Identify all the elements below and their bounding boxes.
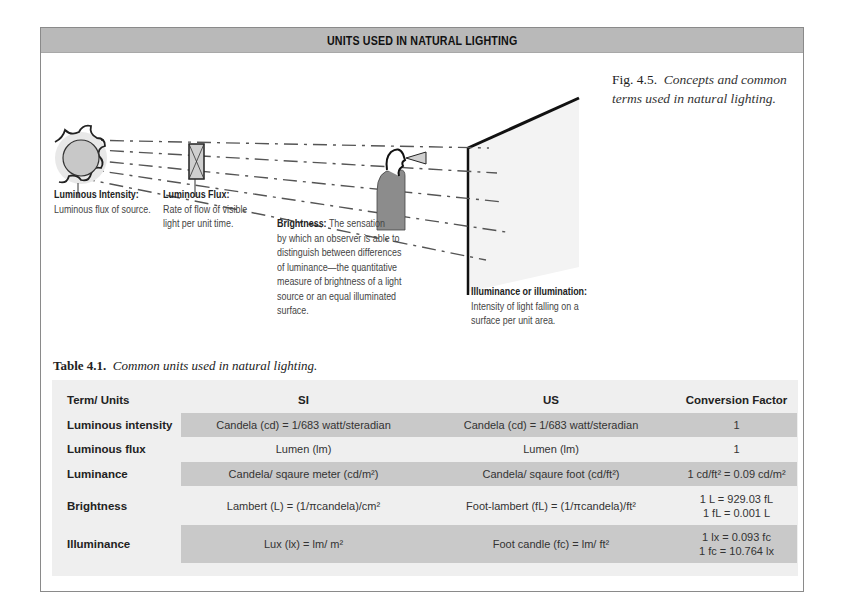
panel-banner: UNITS USED IN NATURAL LIGHTING [41,28,803,53]
row-cells: Lambert (L) = (1/πcandela)/cm² Foot-lamb… [181,487,797,524]
cell-si: Candela (cd) = 1/683 watt/steradian [181,418,426,432]
cell-us: Foot candle (fc) = lm/ ft² [426,537,676,551]
brightness-label: Brightness: The sensation by which an ob… [277,216,402,318]
brightness-body-line: by which an observer is able to [277,231,402,246]
header-conversion: Conversion Factor [676,393,797,407]
luminous-flux-body-line: Rate of flow of visible [163,202,247,217]
cell-us: Lumen (lm) [426,442,676,456]
table-caption-text: Common units used in natural lighting. [113,358,317,373]
cell-conversion: 1 [676,442,797,456]
header-us: US [426,393,676,407]
brightness-body-line: source or an equal illuminated [277,289,402,304]
illuminance-label: Illuminance or illumination: Intensity o… [471,284,587,328]
cell-conversion: 1 cd/ft² = 0.09 cd/m² [676,467,797,481]
lighting-diagram: Luminous Intensity: Luminous flux of sou… [41,52,801,352]
luminous-flux-heading: Luminous Flux: [163,187,247,202]
illuminance-body-line: Intensity of light falling on a [471,299,587,314]
cell-si: Candela/ sqaure meter (cd/m²) [181,467,426,481]
brightness-body-line: measure of brightness of a light [277,274,402,289]
luminous-flux-label: Luminous Flux: Rate of flow of visible l… [163,187,247,231]
brightness-body-line: The sensation [329,217,385,229]
header-cells: SI US Conversion Factor [181,388,797,412]
cell-conversion: 1 [676,418,797,432]
table-caption: Table 4.1. Common units used in natural … [41,358,317,374]
row-cells: Lumen (lm) Lumen (lm) 1 [181,437,797,461]
table-row: Luminous intensity Candela (cd) = 1/683 … [52,413,798,437]
row-term: Luminous flux [67,443,146,455]
luminous-intensity-body: Luminous flux of source. [54,202,151,217]
cell-si: Lumen (lm) [181,442,426,456]
cell-si: Lux (lx) = lm/ m² [181,537,426,551]
panel-title: UNITS USED IN NATURAL LIGHTING [327,33,517,48]
row-cells: Candela/ sqaure meter (cd/m²) Candela/ s… [181,462,797,486]
brightness-body-line: of luminance—the quantitative [277,260,402,275]
brightness-heading: Brightness: [277,217,327,229]
cell-si: Lambert (L) = (1/πcandela)/cm² [181,499,426,513]
table-row: Luminous flux Lumen (lm) Lumen (lm) 1 [52,437,798,461]
cell-us: Candela/ sqaure foot (cd/ft²) [426,467,676,481]
illuminance-body-line: surface per unit area. [471,313,587,328]
row-term: Illuminance [67,538,130,550]
conversion-line: 1 lx = 0.093 fc [676,530,797,544]
table-row: Luminance Candela/ sqaure meter (cd/m²) … [52,462,798,486]
illuminated-surface-wall [468,98,579,295]
luminous-intensity-heading: Luminous Intensity: [54,187,151,202]
luminous-flux-body-line: light per unit time. [163,216,247,231]
luminous-intensity-label: Luminous Intensity: Luminous flux of sou… [54,187,151,216]
units-figure-panel: UNITS USED IN NATURAL LIGHTING [40,27,804,592]
row-term: Luminance [67,468,128,480]
brightness-body-line: distinguish between differences [277,245,402,260]
cell-us: Candela (cd) = 1/683 watt/steradian [426,418,676,432]
figure-caption-label: Fig. 4.5. [612,72,657,87]
conversion-line: 1 fc = 10.764 lx [676,544,797,558]
brightness-body-line: surface. [277,303,402,318]
cell-conversion: 1 lx = 0.093 fc 1 fc = 10.764 lx [676,530,797,558]
row-term: Brightness [67,500,127,512]
cell-us: Foot-lambert (fL) = (1/πcandela)/ft² [426,499,676,513]
row-term: Luminous intensity [67,419,172,431]
row-cells: Lux (lx) = lm/ m² Foot candle (fc) = lm/… [181,525,797,563]
figure-caption: Fig. 4.5. Concepts and common terms used… [612,70,797,108]
header-si: SI [181,393,426,407]
units-table: Term/ Units SI US Conversion Factor Lumi… [52,380,798,576]
table-caption-label: Table 4.1. [53,358,106,373]
illuminance-heading: Illuminance or illumination: [471,284,587,299]
table-header-row: Term/ Units SI US Conversion Factor [52,388,798,412]
table-row: Brightness Lambert (L) = (1/πcandela)/cm… [52,487,798,524]
conversion-line: 1 fL = 0.001 L [676,506,797,520]
row-cells: Candela (cd) = 1/683 watt/steradian Cand… [181,413,797,437]
table-row: Illuminance Lux (lx) = lm/ m² Foot candl… [52,525,798,563]
header-term: Term/ Units [67,394,129,406]
conversion-line: 1 L = 929.03 fL [676,492,797,506]
cell-conversion: 1 L = 929.03 fL 1 fL = 0.001 L [676,492,797,520]
